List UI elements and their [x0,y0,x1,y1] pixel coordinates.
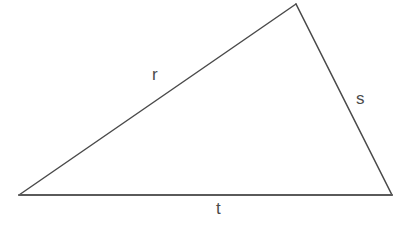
side-r-line [19,4,296,195]
triangle-shape [0,0,414,235]
side-label-t: t [216,200,221,217]
side-s-line [296,4,392,195]
side-label-r: r [152,66,158,83]
triangle-diagram: r s t [0,0,414,235]
side-label-s: s [356,90,365,107]
